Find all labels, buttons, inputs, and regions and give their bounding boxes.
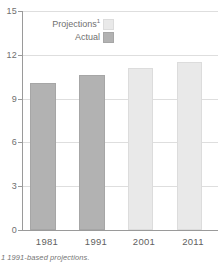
x-tick-label-2011: 2011 [168,236,218,247]
y-tick-label-0: 0 [1,226,17,235]
legend-label-projections-superscript: 1 [97,18,100,24]
x-tick-label-1991: 1991 [71,236,121,247]
legend-item-actual[interactable]: Actual [36,31,114,43]
bar-2001[interactable] [128,68,153,230]
legend-label-projections: Projections1 [52,19,100,29]
footnote-text: 1991-based projections. [7,253,89,262]
y-tick-label-12: 12 [1,51,17,60]
x-tick-label-2001: 2001 [119,236,169,247]
legend-label-projections-text: Projections [52,19,97,29]
legend-swatch-actual [103,32,114,43]
bar-1981[interactable] [30,83,56,231]
y-tick-label-9: 9 [1,95,17,104]
x-tick-label-1981: 1981 [22,236,72,247]
legend-label-actual: Actual [75,32,100,42]
legend-item-projections[interactable]: Projections1 [36,18,114,30]
y-tick-label-6: 6 [1,138,17,147]
chart-footnote: 11991-based projections. [1,253,216,262]
y-tick-label-15: 15 [1,7,17,16]
bar-1991[interactable] [79,75,105,230]
x-axis-tick-labels: 1981 1991 2001 2011 [22,236,218,250]
footnote-marker: 1 [1,253,5,262]
axis-baseline-0 [22,230,218,231]
bar-chart-figure: 15 12 9 6 3 0 1981 1991 2001 2011 Projec… [0,0,222,268]
y-tick-label-3: 3 [1,182,17,191]
y-axis-tick-labels: 15 12 9 6 3 0 [0,0,17,268]
bar-2011[interactable] [177,62,202,230]
legend-swatch-projections [103,19,114,30]
chart-legend: Projections1 Actual [36,18,114,46]
y-tick-mark-0 [18,230,22,231]
